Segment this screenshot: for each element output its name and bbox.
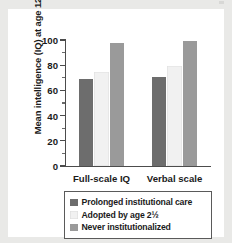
legend-item-label: Adopted by age 2½ [82,210,159,220]
x-axis-line [61,166,211,167]
y-axis-tick-label: 60 [47,85,58,96]
bar [94,72,109,167]
y-axis-line [65,40,66,167]
legend-swatch-icon [70,199,78,207]
y-axis-minor-tick [62,128,65,129]
x-axis-category-label: Full-scale IQ [73,173,130,184]
plot-area: 020406080100 Full-scale IQVerbal scale [65,40,211,166]
legend-item: Prolonged institutional care [70,196,206,209]
chart-panel: Mean intelligence (IQ) at age 12 0204060… [8,9,224,237]
y-axis-tick [60,65,66,66]
legend-swatch-icon [70,224,78,232]
y-axis-tick [60,39,66,40]
bar [167,66,182,166]
y-axis-minor-tick [62,77,65,78]
y-axis-tick [60,140,66,141]
y-axis-tick [60,90,66,91]
y-axis-minor-tick [62,153,65,154]
chart-legend: Prolonged institutional careAdopted by a… [64,191,212,239]
y-axis-tick-label: 100 [42,35,58,46]
y-axis-tick-label: 40 [47,110,58,121]
y-axis-tick-label: 20 [47,135,58,146]
y-axis-tick-label: 0 [53,161,58,172]
bar [183,41,198,166]
legend-item: Never institutionalized [70,221,206,234]
y-axis-tick-label: 80 [47,60,58,71]
bar [110,43,125,166]
y-axis-minor-tick [62,102,65,103]
legend-item-label: Never institutionalized [82,222,171,232]
x-axis-category-label: Verbal scale [147,173,202,184]
y-axis-tick [60,115,66,116]
y-axis-minor-tick [62,52,65,53]
y-axis-title: Mean intelligence (IQ) at age 12 [31,0,45,138]
legend-swatch-icon [70,211,78,219]
legend-item: Adopted by age 2½ [70,209,206,222]
legend-item-label: Prolonged institutional care [82,197,193,207]
chart-page: Mean intelligence (IQ) at age 12 0204060… [0,0,232,243]
bar [79,79,94,166]
y-axis-tick [60,165,66,166]
bar [152,77,167,166]
page-corner-mark [219,1,224,4]
